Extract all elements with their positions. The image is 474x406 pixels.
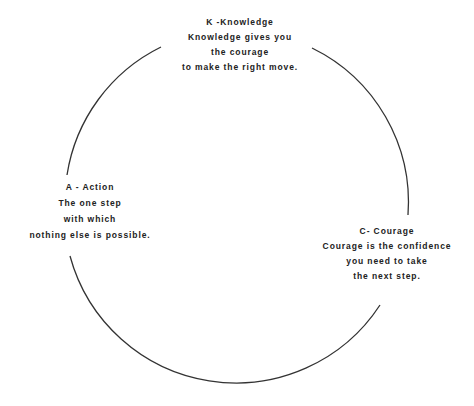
node-heading: K -Knowledge [140, 15, 340, 30]
kac-cycle-diagram: K -Knowledge Knowledge gives you the cou… [0, 0, 474, 406]
node-knowledge: K -Knowledge Knowledge gives you the cou… [140, 15, 340, 75]
node-heading: A - Action [0, 179, 180, 195]
node-text-line: Courage is the confidence [300, 239, 474, 254]
node-text-line: the courage [140, 45, 340, 60]
node-courage: C- Courage Courage is the confidence you… [300, 224, 474, 284]
node-text-line: nothing else is possible. [0, 227, 180, 243]
node-text-line: with which [0, 211, 180, 227]
node-text-line: you need to take [300, 254, 474, 269]
node-action: A - Action The one step with which nothi… [0, 179, 180, 243]
node-text-line: the next step. [300, 269, 474, 284]
node-heading: C- Courage [300, 224, 474, 239]
node-text-line: Knowledge gives you [140, 30, 340, 45]
node-text-line: The one step [0, 195, 180, 211]
node-text-line: to make the right move. [140, 60, 340, 75]
